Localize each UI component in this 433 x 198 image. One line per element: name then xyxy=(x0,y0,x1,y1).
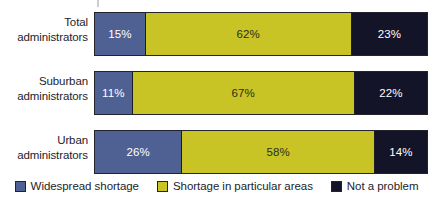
chart-row-total-administrators: Total administrators 15% 62% 23% xyxy=(0,12,433,58)
stacked-bar-suburban-administrators: 11% 67% 22% xyxy=(94,71,428,115)
bar-segment-value: 26% xyxy=(126,146,149,158)
category-label-urban-administrators: Urban administrators xyxy=(4,133,88,162)
category-label-line-1: Total xyxy=(4,15,88,30)
bar-segment-value: 67% xyxy=(232,87,255,99)
bar-segment-widespread-shortage[interactable]: 26% xyxy=(95,131,181,173)
bar-segment-value: 23% xyxy=(378,28,401,40)
bar-segment-widespread-shortage[interactable]: 15% xyxy=(95,13,145,55)
stacked-bar-chart: Total administrators 15% 62% 23% Suburba… xyxy=(0,0,433,198)
bar-segment-shortage-particular-areas[interactable]: 67% xyxy=(132,72,354,114)
legend-item-not-a-problem[interactable]: Not a problem xyxy=(331,180,419,192)
stacked-bar-total-administrators: 15% 62% 23% xyxy=(94,12,428,56)
legend-item-shortage-particular-areas[interactable]: Shortage in particular areas xyxy=(157,180,313,192)
chart-row-suburban-administrators: Suburban administrators 11% 67% 22% xyxy=(0,71,433,117)
legend-label: Shortage in particular areas xyxy=(173,180,313,192)
category-label-line-2: administrators xyxy=(4,148,88,163)
bar-segment-not-a-problem[interactable]: 14% xyxy=(374,131,427,173)
bar-segment-value: 14% xyxy=(389,146,412,158)
category-label-line-1: Suburban xyxy=(4,74,88,89)
legend-swatch-icon xyxy=(15,181,26,192)
stacked-bar-urban-administrators: 26% 58% 14% xyxy=(94,130,428,174)
category-label-line-2: administrators xyxy=(4,89,88,104)
chart-legend: Widespread shortage Shortage in particul… xyxy=(0,176,433,196)
category-label-suburban-administrators: Suburban administrators xyxy=(4,74,88,103)
bar-segment-shortage-particular-areas[interactable]: 58% xyxy=(181,131,374,173)
bar-segment-value: 58% xyxy=(266,146,289,158)
legend-label: Widespread shortage xyxy=(31,180,139,192)
category-label-line-1: Urban xyxy=(4,133,88,148)
legend-label: Not a problem xyxy=(347,180,419,192)
legend-swatch-icon xyxy=(331,181,342,192)
bar-segment-shortage-particular-areas[interactable]: 62% xyxy=(145,13,351,55)
category-label-total-administrators: Total administrators xyxy=(4,15,88,44)
bar-segment-not-a-problem[interactable]: 22% xyxy=(354,72,427,114)
bar-segment-not-a-problem[interactable]: 23% xyxy=(351,13,427,55)
bar-segment-value: 15% xyxy=(108,28,131,40)
bar-segment-value: 62% xyxy=(237,28,260,40)
legend-swatch-icon xyxy=(157,181,168,192)
legend-item-widespread-shortage[interactable]: Widespread shortage xyxy=(15,180,139,192)
bar-segment-value: 11% xyxy=(102,87,124,99)
bar-segment-value: 22% xyxy=(379,87,402,99)
bar-segment-widespread-shortage[interactable]: 11% xyxy=(95,72,132,114)
category-label-line-2: administrators xyxy=(4,30,88,45)
scan-artifact xyxy=(97,0,99,7)
chart-row-urban-administrators: Urban administrators 26% 58% 14% xyxy=(0,130,433,176)
